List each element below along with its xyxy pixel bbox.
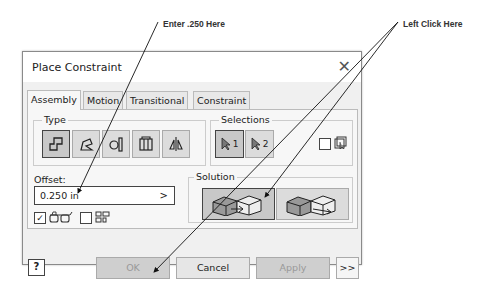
callout-line-offset — [78, 22, 158, 193]
callout-lines — [0, 0, 485, 303]
callout-line-ok — [154, 22, 398, 272]
tab-assembly[interactable]: Assembly — [27, 90, 81, 110]
callout-line-solution — [265, 22, 398, 197]
